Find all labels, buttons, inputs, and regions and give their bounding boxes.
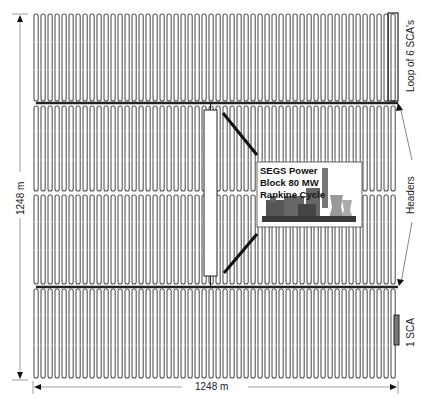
collector-loop [363, 106, 367, 191]
collector-loop [370, 195, 374, 284]
collector-loop [97, 289, 101, 378]
collector-loop [279, 14, 283, 101]
collector-loop [62, 14, 66, 101]
collector-loop [307, 14, 311, 101]
collector-loop [300, 289, 304, 378]
collector-loop [76, 14, 80, 101]
power-block-label: SEGS Power Block 80 MW Rankine Cycle [260, 165, 325, 201]
collector-loop [153, 195, 157, 284]
collector-loop [83, 289, 87, 378]
collector-loop [174, 106, 178, 191]
arrow-up-icon [17, 15, 23, 22]
collector-loop [48, 106, 52, 191]
sca-label: 1 SCA [405, 318, 416, 347]
collector-loop [104, 14, 108, 101]
solar-field-svg [0, 0, 433, 405]
collector-loop [195, 195, 199, 284]
collector-loop [69, 289, 73, 378]
collector-loop [69, 14, 73, 101]
collector-loop [41, 289, 45, 378]
collector-loop [160, 289, 164, 378]
collector-loop [118, 289, 122, 378]
collector-loop [34, 106, 38, 191]
collector-loop [48, 195, 52, 284]
collector-loop [314, 289, 318, 378]
arrow-left-icon [34, 384, 41, 390]
collector-loop [251, 289, 255, 378]
collector-loop [181, 289, 185, 378]
collector-loop [230, 195, 234, 284]
collector-loop [160, 106, 164, 191]
collector-loop [209, 14, 213, 101]
collector-loop [97, 106, 101, 191]
collector-loop [83, 106, 87, 191]
headers-pointer-top [400, 106, 412, 160]
collector-loop [384, 289, 388, 378]
collector-loop [265, 14, 269, 101]
collector-loop [97, 195, 101, 284]
collector-loop [342, 289, 346, 378]
collector-loop [167, 14, 171, 101]
collector-loop [188, 289, 192, 378]
collector-loop [181, 195, 185, 284]
connector-line-top [223, 113, 257, 155]
width-dimension-label: 1248 m [195, 381, 228, 392]
collector-loop [293, 14, 297, 101]
collector-loop [69, 195, 73, 284]
headers-label: Headers [405, 176, 416, 214]
collector-loop [146, 14, 150, 101]
collector-loop [293, 289, 297, 378]
collector-loop [62, 195, 66, 284]
collector-loop [34, 195, 38, 284]
collector-loop [328, 289, 332, 378]
collector-loop [272, 289, 276, 378]
collector-loop [244, 195, 248, 284]
loop-marker [388, 13, 398, 101]
central-pipe [204, 110, 217, 276]
collector-loop [363, 14, 367, 101]
collector-loop [97, 14, 101, 101]
collector-loop [237, 14, 241, 101]
collector-loop [118, 14, 122, 101]
collector-loop [55, 106, 59, 191]
collector-loop [153, 106, 157, 191]
collector-loop [342, 14, 346, 101]
collector-loop [146, 195, 150, 284]
power-block-line2: Block 80 MW [260, 177, 325, 189]
collector-loop [34, 289, 38, 378]
collector-loop [160, 195, 164, 284]
headers-pointer-bottom [401, 222, 412, 283]
collector-loop [363, 195, 367, 284]
collector-loop [188, 14, 192, 101]
collector-loop [265, 289, 269, 378]
collector-loop [139, 289, 143, 378]
collector-loop [153, 289, 157, 378]
collector-loop [146, 289, 150, 378]
collector-loop [104, 195, 108, 284]
solar-field-diagram: 1248 m 1248 m Loop of 6 SCA's Headers 1 … [0, 0, 433, 405]
collector-loop [104, 289, 108, 378]
sca-marker [394, 315, 399, 345]
collector-loop [244, 289, 248, 378]
collector-loop [349, 14, 353, 101]
collector-loop [132, 195, 136, 284]
collector-loop [41, 195, 45, 284]
collector-loop [90, 289, 94, 378]
collector-loop [139, 195, 143, 284]
collector-loop [90, 106, 94, 191]
collector-loop [237, 195, 241, 284]
collector-loop [202, 14, 206, 101]
collector-loop [55, 289, 59, 378]
collector-loop [384, 195, 388, 284]
collector-loop [251, 14, 255, 101]
collector-loop [237, 289, 241, 378]
collector-loop [83, 14, 87, 101]
collector-loop [237, 106, 241, 191]
collector-loop [370, 14, 374, 101]
collector-loop [356, 289, 360, 378]
collector-loop [321, 289, 325, 378]
collector-loop [230, 106, 234, 191]
arrow-right-icon [390, 384, 397, 390]
collector-loop [111, 106, 115, 191]
collector-loop [230, 289, 234, 378]
